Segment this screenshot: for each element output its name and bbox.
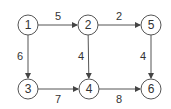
node-label: 1 xyxy=(18,15,38,35)
edge-weight-label: 4 xyxy=(140,50,146,62)
edge-weight-label: 4 xyxy=(78,50,84,62)
node-label: 6 xyxy=(141,79,161,99)
edge-weight-label: 2 xyxy=(116,10,122,22)
edge-weight-label: 8 xyxy=(116,93,122,105)
node-label: 4 xyxy=(79,79,99,99)
node-label: 3 xyxy=(18,79,38,99)
node-label: 2 xyxy=(78,15,98,35)
edge-2-4 xyxy=(88,35,89,78)
edge-weight-label: 7 xyxy=(55,93,61,105)
node-label: 5 xyxy=(141,15,161,35)
edge-weight-label: 6 xyxy=(17,50,23,62)
edge-weight-label: 5 xyxy=(55,10,61,22)
